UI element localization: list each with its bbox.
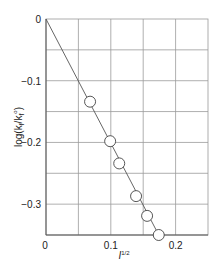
y-tick-labels: 0−0.1−0.2−0.3	[21, 14, 41, 210]
data-point-circle	[85, 96, 96, 107]
y-tick-label: −0.1	[21, 76, 41, 87]
x-tick-label: 0.1	[104, 240, 118, 251]
y-tick-label: 0	[35, 14, 41, 25]
plot-frame	[46, 19, 208, 235]
data-point-circle	[153, 230, 164, 241]
x-axis-label: I1/2	[118, 250, 130, 261]
fit-line	[46, 19, 159, 235]
x-tick-label: 0.2	[169, 240, 183, 251]
y-tick-label: −0.3	[21, 199, 41, 210]
y-tick-label: −0.2	[21, 137, 41, 148]
x-tick-label: 0	[42, 240, 48, 251]
plot-border	[46, 19, 208, 235]
data-point-circle	[105, 136, 116, 147]
data-point-circle	[131, 191, 142, 202]
data-point-circle	[142, 210, 153, 221]
data-point-circle	[114, 158, 125, 169]
grid-lines	[46, 19, 208, 235]
x-tick-labels: 00.10.2	[42, 240, 183, 251]
regression-line	[46, 19, 159, 235]
y-axis-label: log(kf/kfo)	[12, 107, 25, 147]
chart: 00.10.2 0−0.1−0.2−0.3 I1/2 log(kf/kfo)	[0, 0, 222, 270]
